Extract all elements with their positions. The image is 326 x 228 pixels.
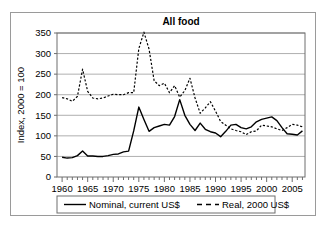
x-tick-label: 1960 — [52, 183, 73, 194]
y-tick-label: 200 — [35, 89, 51, 100]
series-line-nominal — [62, 100, 302, 158]
y-axis-label-group: Index, 2000 = 100 — [15, 67, 26, 143]
y-tick-label: 250 — [35, 68, 51, 79]
y-tick-label: 150 — [35, 110, 51, 121]
series-line-real — [62, 32, 302, 134]
x-tick-label: 1995 — [231, 183, 252, 194]
y-tick-label: 350 — [35, 27, 51, 38]
y-tick-label: 300 — [35, 48, 51, 59]
chart-figure: 050100150200250300350 196019651970197519… — [0, 0, 326, 228]
legend-label-nominal: Nominal, current US$ — [89, 199, 181, 210]
series-lines — [62, 32, 302, 158]
chart-canvas: 050100150200250300350 196019651970197519… — [0, 0, 326, 228]
x-axis-ticks — [62, 177, 302, 182]
x-axis-tick-labels: 1960196519701975198019851990199520002005 — [52, 183, 303, 194]
x-tick-label: 2005 — [282, 183, 303, 194]
y-axis-tick-labels: 050100150200250300350 — [35, 27, 51, 182]
x-tick-label: 1970 — [103, 183, 124, 194]
chart-title-group: All food — [162, 16, 199, 27]
y-axis-label: Index, 2000 = 100 — [15, 67, 26, 143]
chart-title: All food — [162, 16, 199, 27]
x-tick-label: 1980 — [154, 183, 175, 194]
chart-legend: Nominal, current US$Real, 2000 US$ — [57, 196, 290, 213]
y-tick-label: 50 — [40, 151, 51, 162]
x-tick-label: 1985 — [179, 183, 200, 194]
y-tick-label: 0 — [46, 171, 51, 182]
x-tick-label: 1990 — [205, 183, 226, 194]
y-tick-label: 100 — [35, 130, 51, 141]
x-tick-label: 1975 — [128, 183, 149, 194]
legend-label-real: Real, 2000 US$ — [222, 199, 290, 210]
x-tick-label: 1965 — [77, 183, 98, 194]
x-tick-label: 2000 — [256, 183, 277, 194]
